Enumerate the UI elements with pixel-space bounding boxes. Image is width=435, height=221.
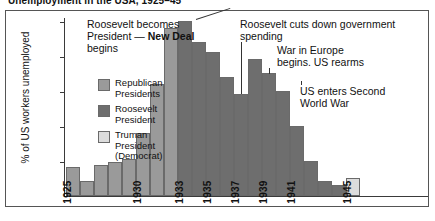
legend-label-truman-line1: Truman <box>115 129 147 140</box>
y-axis-ticks: 25 20 15 10 5 <box>0 0 65 200</box>
legend-item-roosevelt[interactable]: Roosevelt President <box>98 104 208 125</box>
legend-swatch-republican-icon <box>98 79 110 91</box>
legend-swatch-truman-icon <box>98 131 110 143</box>
bar-1925[interactable]: 1925 <box>66 167 80 196</box>
legend-swatch-roosevelt-icon <box>98 105 110 117</box>
annotation-new-deal-line2a: President — <box>87 30 148 42</box>
annotation-us-enters-war: US enters Second World War <box>300 85 425 109</box>
annotation-leader-war-europe <box>269 68 270 74</box>
annotation-spending-cuts: Roosevelt cuts down government spending <box>240 18 405 42</box>
bar-year-label-1925: 1925 <box>62 180 73 203</box>
annotation-us-enters-war-line1: US enters Second <box>300 85 385 97</box>
legend-label-republican-line1: Republican <box>115 77 163 88</box>
bar-1939[interactable]: 1939 <box>262 73 276 196</box>
bar-year-label-1945: 1945 <box>342 180 353 203</box>
bar-1927[interactable] <box>94 165 108 196</box>
bar-year-label-1939: 1939 <box>258 180 269 203</box>
bar-year-label-1933: 1933 <box>174 180 185 203</box>
bar-1945[interactable]: 1945 <box>346 178 360 196</box>
legend-label-truman-line2: President <box>115 140 155 151</box>
annotation-new-deal-bold: New Deal <box>148 30 195 42</box>
legend-label-roosevelt: Roosevelt President <box>115 104 157 125</box>
annotation-spending-cuts-line2: spending <box>240 30 283 42</box>
legend-label-roosevelt-line2: President <box>115 114 155 125</box>
legend: Republican Presidents Roosevelt Presiden… <box>98 78 208 167</box>
y-axis-label: % of US workers unemployed <box>20 13 31 183</box>
bar-1938[interactable] <box>248 59 262 196</box>
bar-year-label-1930: 1930 <box>132 180 143 203</box>
annotation-leader-us-enters-war <box>301 81 302 85</box>
bar-1936[interactable] <box>220 77 234 196</box>
legend-label-truman: Truman President (Democrat) <box>115 130 163 162</box>
annotation-new-deal-line1: Roosevelt becomes <box>87 18 179 30</box>
annotation-new-deal: Roosevelt becomes President — New Deal b… <box>87 18 232 54</box>
legend-label-republican-line2: Presidents <box>115 88 160 99</box>
chart-root: Unemployment in the USA, 1925–45 25 20 1… <box>0 0 435 221</box>
legend-label-republican: Republican Presidents <box>115 78 163 99</box>
bar-1937[interactable]: 1937 <box>234 94 248 196</box>
bar-1935[interactable]: 1935 <box>206 52 220 196</box>
legend-label-roosevelt-line1: Roosevelt <box>115 103 157 114</box>
bar-1941[interactable]: 1941 <box>290 126 304 196</box>
legend-item-republican[interactable]: Republican Presidents <box>98 78 208 99</box>
bar-1926[interactable] <box>80 181 94 196</box>
bar-year-label-1941: 1941 <box>286 180 297 203</box>
annotation-leader-spending-cuts <box>241 42 242 94</box>
annotation-war-europe-line2: begins. US rearms <box>277 56 364 68</box>
annotation-war-europe: War in Europe begins. US rearms <box>277 44 412 68</box>
bar-1942[interactable] <box>304 161 318 196</box>
bar-year-label-1937: 1937 <box>230 180 241 203</box>
annotation-us-enters-war-line2: World War <box>300 97 349 109</box>
annotation-new-deal-line3: begins <box>87 42 118 54</box>
annotation-war-europe-line1: War in Europe <box>277 44 344 56</box>
bar-1943[interactable] <box>318 181 332 196</box>
bar-year-label-1935: 1935 <box>202 180 213 203</box>
legend-label-truman-line3: (Democrat) <box>115 150 163 161</box>
annotation-spending-cuts-line1: Roosevelt cuts down government <box>240 18 395 30</box>
bar-1928[interactable] <box>108 162 122 196</box>
legend-item-truman[interactable]: Truman President (Democrat) <box>98 130 208 162</box>
